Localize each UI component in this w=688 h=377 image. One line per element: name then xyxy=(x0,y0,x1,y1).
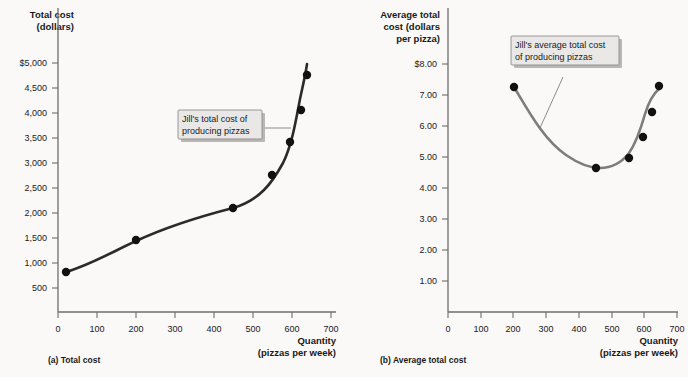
x-axis-title-line1: Quantity xyxy=(297,335,336,346)
data-point xyxy=(62,268,70,276)
y-axis-title-line2: (dollars) xyxy=(37,21,74,32)
x-tick-300: 300 xyxy=(538,324,553,334)
y-axis-ticks xyxy=(442,64,448,281)
x-axis-title-line1: Quantity xyxy=(639,335,678,346)
y-axis-title-line2: cost (dollars xyxy=(384,21,441,32)
panel-average-total-cost: Average total cost (dollars per pizza) 1… xyxy=(344,0,688,377)
x-tick-400: 400 xyxy=(571,324,586,334)
x-tick-300: 300 xyxy=(167,324,182,334)
data-point xyxy=(655,82,663,90)
panel-caption: (b) Average total cost xyxy=(380,355,466,365)
y-tick-6: 6.00 xyxy=(419,121,437,131)
x-tick-100: 100 xyxy=(89,324,104,334)
data-point xyxy=(510,83,518,91)
average-total-cost-curve xyxy=(514,87,659,168)
y-tick-2000: 2,000 xyxy=(24,208,47,218)
x-tick-600: 600 xyxy=(284,324,299,334)
x-axis-tick-labels: 0 100 200 300 400 500 600 700 xyxy=(55,324,338,334)
y-axis-tick-labels: 500 1,000 1,500 2,000 2,500 3,000 3,500 … xyxy=(19,58,47,293)
y-tick-3000: 3,000 xyxy=(24,158,47,168)
data-point xyxy=(132,236,140,244)
x-tick-200: 200 xyxy=(505,324,520,334)
x-tick-0: 0 xyxy=(445,324,450,334)
x-axis-tick-labels: 0 100 200 300 400 500 600 700 xyxy=(445,324,684,334)
panel-total-cost: Total cost (dollars) 500 1,000 xyxy=(0,0,344,377)
total-cost-data-points xyxy=(62,71,311,276)
y-tick-1000: 1,000 xyxy=(24,258,47,268)
x-tick-100: 100 xyxy=(473,324,488,334)
data-point xyxy=(297,106,305,114)
data-point xyxy=(303,71,311,79)
data-point xyxy=(592,164,600,172)
y-tick-2500: 2,500 xyxy=(24,183,47,193)
x-tick-600: 600 xyxy=(636,324,651,334)
annotation-line1: Jill's total cost of xyxy=(182,114,248,124)
y-tick-7: 7.00 xyxy=(419,90,437,100)
annotation-line2: of producing pizzas xyxy=(515,52,593,62)
data-point xyxy=(286,138,294,146)
x-axis-title-line2: (pizzas per week) xyxy=(600,347,678,358)
y-tick-5: 5.00 xyxy=(419,152,437,162)
total-cost-annotation: Jill's total cost of producing pizzas xyxy=(178,110,291,142)
y-axis-tick-labels: 1.00 2.00 3.00 4.00 5.00 6.00 7.00 $8.00 xyxy=(414,59,437,286)
x-tick-500: 500 xyxy=(245,324,260,334)
y-axis-ticks xyxy=(52,63,58,288)
data-point xyxy=(639,133,647,141)
average-total-cost-annotation: Jill's average total cost of producing p… xyxy=(511,36,622,128)
x-tick-200: 200 xyxy=(128,324,143,334)
data-point xyxy=(229,204,237,212)
x-tick-500: 500 xyxy=(604,324,619,334)
total-cost-curve xyxy=(66,64,307,272)
chart-total-cost: Total cost (dollars) 500 1,000 xyxy=(0,0,344,377)
x-tick-700: 700 xyxy=(323,324,338,334)
y-axis-title-line1: Total cost xyxy=(30,9,75,20)
data-point xyxy=(268,171,276,179)
y-tick-4000: 4,000 xyxy=(24,108,47,118)
chart-average-total-cost: Average total cost (dollars per pizza) 1… xyxy=(344,0,688,377)
y-tick-500: 500 xyxy=(32,283,47,293)
x-axis-title-line2: (pizzas per week) xyxy=(258,347,336,358)
panel-caption: (a) Total cost xyxy=(48,355,100,365)
y-tick-4: 4.00 xyxy=(419,183,437,193)
y-tick-3500: 3,500 xyxy=(24,133,47,143)
y-tick-4500: 4,500 xyxy=(24,83,47,93)
y-tick-3: 3.00 xyxy=(419,214,437,224)
y-tick-1500: 1,500 xyxy=(24,233,47,243)
annotation-line1: Jill's average total cost xyxy=(515,40,606,50)
figure-container: Total cost (dollars) 500 1,000 xyxy=(0,0,688,377)
x-axis-ticks xyxy=(58,312,331,318)
x-tick-400: 400 xyxy=(206,324,221,334)
annotation-line2: producing pizzas xyxy=(182,126,250,136)
y-axis-title-line3: per pizza) xyxy=(396,33,440,44)
x-tick-700: 700 xyxy=(669,324,684,334)
y-tick-1: 1.00 xyxy=(419,276,437,286)
y-tick-2: 2.00 xyxy=(419,245,437,255)
y-tick-8: $8.00 xyxy=(414,59,437,69)
x-axis-ticks xyxy=(448,312,677,318)
y-axis-title-line1: Average total xyxy=(380,9,440,20)
data-point xyxy=(625,154,633,162)
y-tick-5000: $5,000 xyxy=(19,58,47,68)
data-point xyxy=(648,108,656,116)
x-tick-0: 0 xyxy=(55,324,60,334)
